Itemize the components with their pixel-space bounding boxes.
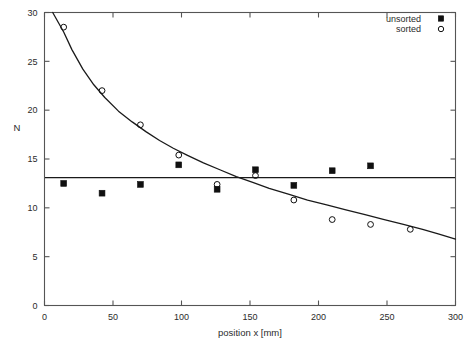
x-tick-label: 100 — [174, 312, 189, 322]
y-tick-label: 20 — [27, 105, 37, 115]
plot-frame — [45, 13, 456, 306]
data-point-unsorted — [61, 181, 67, 187]
x-tick-label: 300 — [448, 312, 463, 322]
data-point-sorted — [99, 88, 105, 94]
x-tick-label: 50 — [108, 312, 118, 322]
legend-label-unsorted: unsorted — [386, 14, 421, 24]
data-point-unsorted — [291, 182, 297, 188]
y-tick-label: 25 — [27, 57, 37, 67]
data-point-sorted — [138, 122, 144, 128]
data-point-sorted — [368, 222, 374, 228]
x-tick-label: 200 — [311, 312, 326, 322]
x-tick-label: 0 — [42, 312, 47, 322]
fit-lines — [45, 13, 456, 240]
legend-label-sorted: sorted — [396, 24, 421, 34]
data-point-sorted — [329, 217, 335, 223]
scatter-chart: 051015202530050100150200250300position x… — [0, 0, 473, 342]
legend: unsortedsorted — [386, 14, 444, 35]
legend-marker-sorted — [438, 26, 443, 31]
y-tick-label: 5 — [32, 252, 37, 262]
y-axis: 051015202530 — [27, 8, 455, 311]
data-point-unsorted — [99, 190, 105, 196]
x-tick-label: 250 — [379, 312, 394, 322]
data-point-sorted — [176, 152, 182, 158]
data-point-unsorted — [368, 163, 374, 169]
x-tick-label: 150 — [242, 312, 257, 322]
data-point-unsorted — [253, 167, 259, 173]
data-point-sorted — [407, 226, 413, 232]
chart-figure: 051015202530050100150200250300position x… — [0, 0, 473, 342]
data-point-unsorted — [176, 162, 182, 168]
series-unsorted — [61, 162, 374, 196]
data-point-sorted — [291, 197, 297, 203]
y-tick-label: 0 — [32, 301, 37, 311]
series-sorted — [61, 24, 413, 232]
data-point-unsorted — [138, 181, 144, 187]
y-tick-label: 15 — [27, 154, 37, 164]
y-tick-label: 10 — [27, 203, 37, 213]
y-tick-label: 30 — [27, 8, 37, 18]
x-axis-title: position x [mm] — [218, 327, 282, 338]
legend-marker-unsorted — [438, 16, 443, 21]
axes-rect — [45, 13, 456, 306]
y-axis-title: N — [14, 122, 21, 133]
data-point-unsorted — [329, 168, 335, 174]
decay-fit-sorted — [53, 13, 456, 240]
